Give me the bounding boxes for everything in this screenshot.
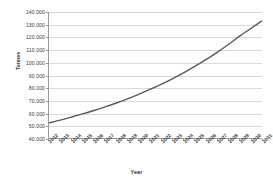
x-axis-title: Year	[0, 169, 273, 175]
y-axis-tick-label: 120.000	[26, 34, 45, 40]
y-axis-tick-label: 140.000	[26, 9, 45, 15]
y-axis-tick-label: 60.000	[29, 111, 45, 117]
y-axis-tick-label: 70.000	[29, 98, 45, 104]
y-axis-tick-label: 80.000	[29, 85, 45, 91]
x-axis-tick-label: 2031	[261, 132, 273, 144]
y-axis-tick-label: 50.000	[29, 123, 45, 129]
y-axis-tick-label: 100.000	[26, 60, 45, 66]
y-axis-tick-label: 130.000	[26, 22, 45, 28]
y-axis-tick-label: 40.000	[29, 136, 45, 142]
y-axis-tick-label: 110.000	[26, 47, 45, 53]
y-axis-tick-labels: 40.00050.00060.00070.00080.00090.000100.…	[0, 12, 45, 139]
x-axis-tick-labels: 2012201320142015201620172018201920202021…	[48, 140, 262, 170]
plot-area	[48, 12, 262, 139]
y-axis-tick-label: 90.000	[29, 73, 45, 79]
series-path	[49, 21, 262, 123]
series-line-tonnes	[49, 12, 262, 138]
line-chart: Tonnes 40.00050.00060.00070.00080.00090.…	[0, 0, 273, 184]
